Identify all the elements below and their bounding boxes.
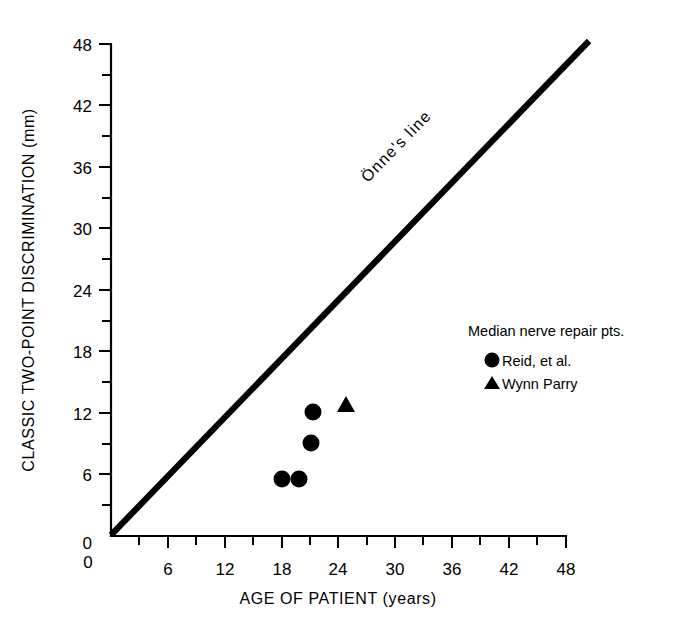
data-point bbox=[305, 404, 322, 421]
y-tick-label-12: 12 bbox=[73, 405, 92, 424]
data-point bbox=[337, 396, 355, 412]
y-tick-label-36: 36 bbox=[73, 159, 92, 178]
x-tick-label-6: 6 bbox=[163, 560, 172, 579]
y-tick-label-30: 30 bbox=[73, 220, 92, 239]
y-tick-label-18: 18 bbox=[73, 343, 92, 362]
y-tick-label-0: 0 bbox=[83, 534, 92, 553]
data-point bbox=[303, 435, 320, 452]
x-tick-label-36: 36 bbox=[443, 560, 462, 579]
y-tick-label-48: 48 bbox=[73, 36, 92, 55]
y-tick-label-6: 6 bbox=[83, 466, 92, 485]
y-tick-label-42: 42 bbox=[73, 97, 92, 116]
legend-label-wynn-parry: Wynn Parry bbox=[502, 376, 578, 392]
x-tick-label-48: 48 bbox=[557, 560, 576, 579]
legend-circle-icon bbox=[485, 353, 500, 368]
series-reid-et-al bbox=[274, 404, 322, 488]
y-axis-title: CLASSIC TWO-POINT DISCRIMINATION (mm) bbox=[20, 108, 37, 472]
series-wynn-parry bbox=[337, 396, 355, 412]
figure-container: Önne's line 48 bbox=[0, 0, 684, 633]
x-axis-tick-labels: 0 6 12 18 24 30 36 42 48 bbox=[83, 553, 575, 579]
data-point bbox=[291, 471, 308, 488]
onnes-line-label: Önne's line bbox=[358, 107, 435, 186]
legend: Median nerve repair pts. Reid, et al. Wy… bbox=[468, 323, 624, 392]
x-tick-label-12: 12 bbox=[216, 560, 235, 579]
x-tick-label-42: 42 bbox=[500, 560, 519, 579]
y-axis-tick-labels: 48 42 36 30 24 18 12 6 0 bbox=[73, 36, 92, 553]
x-tick-label-18: 18 bbox=[273, 560, 292, 579]
x-axis-title: AGE OF PATIENT (years) bbox=[239, 590, 436, 607]
legend-triangle-icon bbox=[484, 376, 500, 389]
legend-title: Median nerve repair pts. bbox=[468, 323, 624, 339]
x-tick-label-30: 30 bbox=[386, 560, 405, 579]
onnes-reference-line bbox=[111, 41, 589, 535]
x-tick-label-24: 24 bbox=[329, 560, 348, 579]
legend-label-reid: Reid, et al. bbox=[502, 353, 571, 369]
data-point bbox=[274, 471, 291, 488]
y-tick-label-24: 24 bbox=[73, 282, 92, 301]
x-tick-label-0: 0 bbox=[83, 553, 92, 572]
scatter-plot: Önne's line 48 bbox=[0, 0, 684, 633]
